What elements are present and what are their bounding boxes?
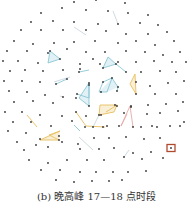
graph-node [116, 90, 118, 92]
graph-node [17, 60, 19, 62]
graph-node [61, 7, 63, 9]
graph-node [121, 179, 123, 181]
graph-node [39, 81, 41, 83]
graph-node [140, 126, 142, 128]
graph-node [73, 41, 75, 43]
graph-node [35, 144, 37, 146]
graph-node [71, 120, 73, 122]
graph-node [55, 179, 57, 181]
graph-node [175, 93, 177, 95]
edge-pink [130, 106, 133, 127]
edge-blue [74, 125, 80, 131]
graph-node [62, 69, 64, 71]
graph-node [59, 58, 61, 60]
graph-node [124, 2, 126, 4]
graph-node [4, 111, 6, 113]
graph-node [94, 40, 96, 42]
graph-node [73, 21, 75, 23]
graph-node [47, 146, 49, 148]
nodes-layer [2, 0, 187, 183]
edge-orange [76, 112, 86, 126]
graph-node [52, 102, 54, 104]
graph-node [99, 63, 101, 65]
graph-node [49, 50, 51, 52]
edge-pink [121, 114, 127, 126]
graph-node [107, 10, 109, 12]
graph-node [173, 40, 175, 42]
graph-node [79, 171, 81, 173]
graph-node [61, 141, 63, 143]
graph-node [75, 111, 77, 113]
graph-node [6, 50, 8, 52]
graph-node [165, 103, 167, 105]
figure-caption: (b) 晚高峰 17—18 点时段 [0, 190, 193, 203]
graph-node [37, 62, 39, 64]
graph-node [108, 180, 110, 182]
graph-node [40, 169, 42, 171]
graph-node [135, 40, 137, 42]
graph-node [103, 159, 105, 161]
graph-node [21, 111, 23, 113]
graph-node [149, 85, 151, 87]
graph-node [97, 23, 99, 25]
graph-node [118, 125, 120, 127]
edge-grey [113, 11, 118, 24]
graph-node [151, 125, 153, 127]
graph-node [169, 125, 171, 127]
graph-node [162, 54, 164, 56]
graph-node [135, 93, 137, 95]
graph-node [154, 44, 156, 46]
graph-node [13, 40, 15, 42]
graph-node [108, 137, 110, 139]
graph-node [117, 23, 119, 25]
graph-node [183, 121, 185, 123]
graph-node [115, 63, 117, 65]
graph-node [125, 50, 127, 52]
graph-node [8, 90, 10, 92]
graph-node [147, 33, 149, 35]
graph-node [75, 97, 77, 99]
graph-node [86, 159, 88, 161]
graph-node [140, 71, 142, 73]
graph-node [141, 158, 143, 160]
graph-node [117, 86, 119, 88]
graph-node [111, 77, 113, 79]
graph-node [179, 51, 181, 53]
graph-node [95, 0, 97, 1]
edge-grey [124, 150, 129, 157]
graph-node [30, 21, 32, 23]
graph-node [130, 106, 132, 108]
graph-node [25, 132, 27, 134]
graph-node [117, 42, 119, 44]
graph-node [9, 70, 11, 72]
graph-node [24, 69, 26, 71]
graph-node [127, 171, 129, 173]
graph-node [30, 121, 32, 123]
graph-node [95, 171, 97, 173]
graph-node [167, 82, 169, 84]
graph-node [93, 137, 95, 139]
graph-node [88, 82, 90, 84]
graph-node [105, 30, 107, 32]
graph-node [55, 83, 57, 85]
graph-node [12, 121, 14, 123]
graph-node [40, 29, 42, 31]
graph-node [20, 29, 22, 31]
graph-node [179, 125, 181, 127]
graph-node [157, 24, 159, 26]
graph-node [147, 104, 149, 106]
edges-layer [27, 11, 136, 157]
graph-node [66, 78, 68, 80]
graph-node [106, 125, 108, 127]
graph-node [62, 96, 64, 98]
graph-node [113, 147, 115, 149]
graph-node [58, 139, 60, 141]
graph-node [59, 169, 61, 171]
graph-node [100, 114, 102, 116]
graph-node [32, 43, 34, 45]
graph-node [144, 51, 146, 53]
graph-node [58, 135, 60, 137]
graph-node [79, 68, 81, 70]
graph-node [125, 71, 127, 73]
graph-node [156, 126, 158, 128]
